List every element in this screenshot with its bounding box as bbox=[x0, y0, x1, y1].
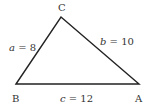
side-label-b: b = 10 bbox=[100, 36, 134, 47]
side-label-c: c = 12 bbox=[60, 93, 93, 104]
side-label-a: a = 8 bbox=[9, 42, 36, 53]
side-c-value: = 12 bbox=[66, 93, 93, 104]
side-b-value: = 10 bbox=[106, 36, 133, 47]
side-a-value: = 8 bbox=[15, 42, 36, 53]
vertex-label-a: A bbox=[134, 93, 143, 104]
vertex-label-c: C bbox=[58, 2, 66, 13]
vertex-label-b: B bbox=[12, 93, 19, 104]
triangle-diagram: C B A a = 8 b = 10 c = 12 bbox=[0, 0, 152, 110]
